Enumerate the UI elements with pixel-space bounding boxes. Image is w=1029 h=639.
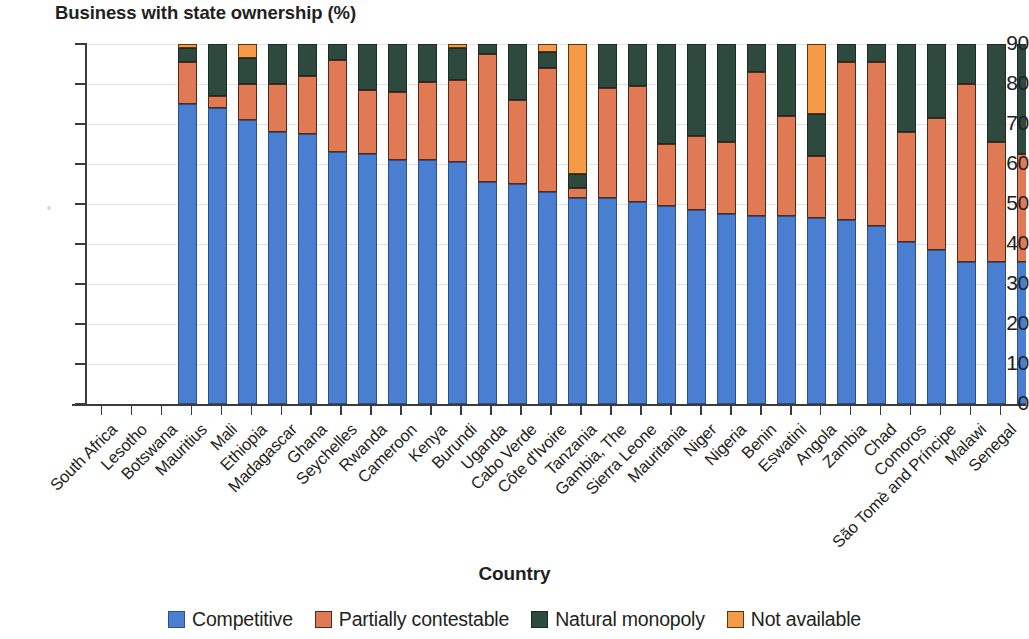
bar-cabo-verde[interactable] <box>598 44 617 404</box>
bar-segment-partial <box>657 144 676 206</box>
x-tick-mark-1 <box>131 404 133 415</box>
bar-segment-monopoly <box>807 114 826 156</box>
bar-segment-monopoly <box>1017 44 1026 154</box>
bar-segment-monopoly <box>448 48 467 80</box>
x-tick-mark-10 <box>400 404 402 415</box>
bar-segment-partial <box>777 116 796 216</box>
bar-segment-partial <box>747 72 766 216</box>
bar-mauritania[interactable] <box>747 44 766 404</box>
bar-uganda[interactable] <box>568 44 587 404</box>
stacked-bar-chart: Business with state ownership (%) South … <box>0 0 1029 639</box>
bar-segment-notavail <box>238 44 257 58</box>
x-tick-mark-30 <box>1000 404 1002 415</box>
bar-segment-competitive <box>238 120 257 404</box>
bar-nigeria[interactable] <box>807 44 826 404</box>
x-tick-mark-27 <box>910 404 912 415</box>
bar-segment-notavail <box>807 44 826 114</box>
bar-mauritius[interactable] <box>268 44 287 404</box>
x-axis-title: Country <box>0 563 1029 585</box>
bar-zambia[interactable] <box>927 44 946 404</box>
plot-area <box>86 44 1026 404</box>
bar-benin[interactable] <box>837 44 856 404</box>
x-tick-mark-19 <box>670 404 672 415</box>
bar-ethiopia[interactable] <box>328 44 347 404</box>
bar-segment-partial <box>448 80 467 162</box>
x-tick-mark-6 <box>281 404 283 415</box>
bar-segment-monopoly <box>268 44 287 84</box>
legend-item-competitive[interactable]: Competitive <box>168 608 293 631</box>
bar-segment-partial <box>418 82 437 160</box>
x-tick-mark-21 <box>730 404 732 415</box>
x-tick-mark-22 <box>760 404 762 415</box>
bar-segment-monopoly <box>897 44 916 132</box>
bar-eswatini[interactable] <box>867 44 886 404</box>
bar-chad[interactable] <box>957 44 976 404</box>
bar-segment-monopoly <box>628 44 647 86</box>
bar-segment-partial <box>807 156 826 218</box>
bar-s-o-tom-and-pr-ncipe[interactable] <box>1017 44 1026 404</box>
bar-segment-monopoly <box>358 44 377 90</box>
bar-segment-partial <box>538 68 557 192</box>
x-tick-mark-8 <box>340 404 342 415</box>
bar-angola[interactable] <box>897 44 916 404</box>
bar-seychelles[interactable] <box>418 44 437 404</box>
bar-madagascar[interactable] <box>358 44 377 404</box>
bar-segment-competitive <box>747 216 766 404</box>
y-tick-label-30: 30 <box>961 271 1029 295</box>
bar-segment-monopoly <box>747 44 766 72</box>
bar-segment-competitive <box>867 226 886 404</box>
bar-segment-competitive <box>837 220 856 404</box>
bar-segment-notavail <box>178 44 197 48</box>
bar-segment-monopoly <box>238 58 257 84</box>
bar-tanzania[interactable] <box>657 44 676 404</box>
bar-burundi[interactable] <box>538 44 557 404</box>
bar-segment-monopoly <box>178 48 197 62</box>
bar-segment-notavail <box>568 44 587 174</box>
bar-sierra-leone[interactable] <box>717 44 736 404</box>
y-tick-label-90: 90 <box>961 31 1029 55</box>
bar-segment-competitive <box>777 216 796 404</box>
x-tick-mark-3 <box>191 404 193 415</box>
bar-segment-partial <box>568 188 587 198</box>
legend-item-notavail[interactable]: Not available <box>727 608 861 631</box>
bar-cameroon[interactable] <box>478 44 497 404</box>
legend-item-partial[interactable]: Partially contestable <box>315 608 509 631</box>
bar-south-africa[interactable] <box>178 44 197 404</box>
bar-rwanda[interactable] <box>448 44 467 404</box>
x-tick-mark-5 <box>251 404 253 415</box>
bar-segment-notavail <box>538 44 557 52</box>
bar-segment-competitive <box>717 214 736 404</box>
x-tick-mark-18 <box>640 404 642 415</box>
y-tick-mark-30 <box>75 283 85 285</box>
x-tick-mark-28 <box>940 404 942 415</box>
bar-segment-monopoly <box>687 44 706 136</box>
bar-niger[interactable] <box>777 44 796 404</box>
x-tick-mark-14 <box>520 404 522 415</box>
bar-segment-competitive <box>807 218 826 404</box>
bar-comoros[interactable] <box>987 44 1006 404</box>
bar-segment-competitive <box>448 162 467 404</box>
bar-ghana[interactable] <box>388 44 407 404</box>
bar-segment-monopoly <box>927 44 946 118</box>
bar-lesotho[interactable] <box>208 44 227 404</box>
bar-c-te-d-ivoire[interactable] <box>628 44 647 404</box>
x-tick-mark-24 <box>820 404 822 415</box>
bar-botswana[interactable] <box>238 44 257 404</box>
legend-swatch-monopoly-icon <box>531 611 548 628</box>
bar-segment-monopoly <box>657 44 676 144</box>
bar-segment-partial <box>837 62 856 220</box>
bar-segment-competitive <box>388 160 407 404</box>
bar-segment-monopoly <box>867 44 886 62</box>
legend-label: Competitive <box>192 608 293 631</box>
y-tick-label-60: 60 <box>961 151 1029 175</box>
bar-segment-competitive <box>298 134 317 404</box>
bar-segment-competitive <box>657 206 676 404</box>
legend-item-monopoly[interactable]: Natural monopoly <box>531 608 705 631</box>
bar-kenya[interactable] <box>508 44 527 404</box>
bar-gambia-the[interactable] <box>687 44 706 404</box>
x-tick-mark-25 <box>850 404 852 415</box>
bar-segment-monopoly <box>418 44 437 82</box>
bar-mali[interactable] <box>298 44 317 404</box>
chart-legend: CompetitivePartially contestableNatural … <box>0 608 1029 631</box>
bar-segment-notavail <box>448 44 467 48</box>
